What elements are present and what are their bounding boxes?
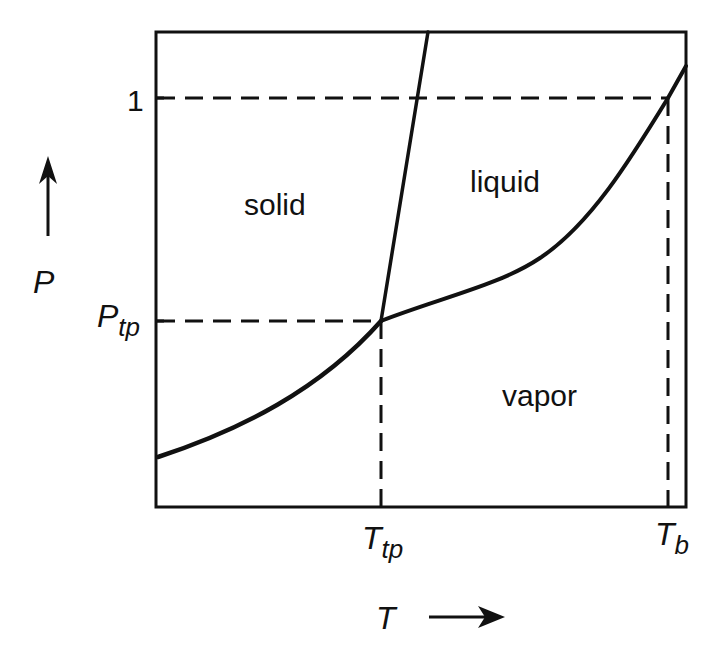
up-arrow-icon (39, 156, 57, 236)
y-tick-label-p-triple: Ptp (97, 300, 140, 332)
x-axis-label: T (376, 602, 396, 634)
x-tick-label-t-boiling-main: T (655, 516, 675, 552)
x-tick-label-t-triple-main: T (362, 520, 382, 556)
melting-curve (381, 32, 428, 321)
y-tick-label-p-triple-sub: tp (118, 312, 140, 342)
vapor-region-label: vapor (502, 381, 577, 411)
x-tick-label-t-boiling-sub: b (675, 530, 689, 560)
y-tick-label-p-triple-main: P (97, 298, 118, 334)
plot-frame (156, 32, 686, 507)
right-arrow-icon (429, 606, 505, 628)
sublimation-curve (158, 321, 381, 457)
solid-region-label: solid (244, 190, 306, 220)
x-tick-label-t-triple: Ttp (362, 522, 403, 554)
x-tick-label-t-boiling: Tb (655, 518, 689, 550)
liquid-region-label: liquid (470, 167, 540, 197)
x-tick-label-t-triple-sub: tp (382, 534, 404, 564)
y-tick-label-one: 1 (127, 86, 144, 116)
y-axis-label: P (33, 266, 54, 298)
